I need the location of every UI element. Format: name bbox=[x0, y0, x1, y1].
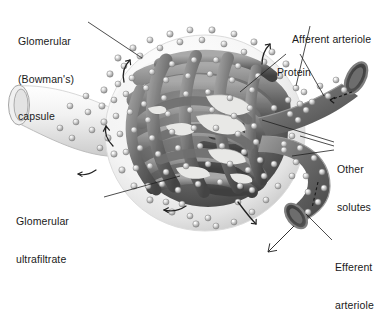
label-line-1: Glomerular bbox=[16, 215, 69, 228]
label-line-3: capsule bbox=[18, 110, 74, 123]
leader-efferent bbox=[306, 214, 332, 240]
label-line-2: ultrafiltrate bbox=[16, 253, 69, 266]
efferent-exit-arrow bbox=[268, 226, 294, 252]
label-other-solutes: Other solutes bbox=[337, 138, 371, 238]
label-line-1: Other bbox=[337, 163, 371, 176]
label-bowmans-capsule: Glomerular (Bowman's) capsule bbox=[18, 10, 74, 148]
label-glomerular-ultrafiltrate: Glomerular ultrafiltrate bbox=[16, 190, 69, 290]
label-protein: Protein bbox=[277, 41, 311, 104]
label-line-2: (Bowman's) bbox=[18, 73, 74, 86]
label-line-2: arteriole bbox=[335, 299, 374, 312]
label-line-2: solutes bbox=[337, 201, 371, 214]
label-line-1: Protein bbox=[277, 66, 311, 79]
label-line-1: Efferent bbox=[335, 261, 374, 274]
label-line-1: Glomerular bbox=[18, 35, 74, 48]
leader-bowmans-capsule bbox=[88, 22, 142, 58]
label-efferent-arteriole: Efferent arteriole bbox=[335, 236, 374, 313]
